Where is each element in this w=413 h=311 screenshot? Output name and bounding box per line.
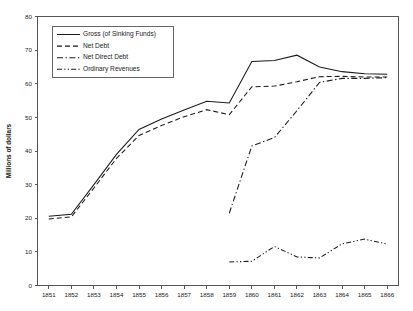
x-tick-label: 1866 xyxy=(380,291,394,298)
y-tick-label: 20 xyxy=(25,214,32,221)
y-tick-label: 80 xyxy=(25,13,32,20)
x-tick-label: 1858 xyxy=(200,291,214,298)
x-tick-label: 1862 xyxy=(290,291,304,298)
series-line-3 xyxy=(229,239,387,262)
x-tick-label: 1861 xyxy=(268,291,282,298)
line-chart: 01020304050607080 1851185218531854185518… xyxy=(0,0,413,311)
x-tick-label: 1860 xyxy=(245,291,259,298)
chart-legend: Gross (of Sinking Funds)Net DebtNet Dire… xyxy=(52,26,173,77)
x-tick-label: 1856 xyxy=(155,291,169,298)
chart-container: 01020304050607080 1851185218531854185518… xyxy=(0,0,413,311)
x-tick-label: 1865 xyxy=(358,291,372,298)
series-line-2 xyxy=(229,78,387,214)
y-tick-label: 10 xyxy=(25,248,32,255)
x-tick-label: 1854 xyxy=(110,291,124,298)
x-tick-label: 1855 xyxy=(132,291,146,298)
y-tick-label: 50 xyxy=(25,114,32,121)
x-tick-label: 1863 xyxy=(313,291,327,298)
x-tick-label: 1857 xyxy=(177,291,191,298)
y-axis-title: Millions of dollars xyxy=(5,123,12,178)
legend-label-3: Ordinary Revenues xyxy=(83,65,141,73)
legend-label-1: Net Debt xyxy=(83,42,109,49)
y-tick-label: 0 xyxy=(29,282,33,289)
x-tick-label: 1859 xyxy=(222,291,236,298)
y-tick-label: 40 xyxy=(25,147,32,154)
y-tick-label: 70 xyxy=(25,46,32,53)
series-lines xyxy=(49,55,387,262)
y-tick-label: 30 xyxy=(25,181,32,188)
y-axis-ticks: 01020304050607080 xyxy=(25,13,37,289)
x-tick-label: 1851 xyxy=(42,291,56,298)
x-tick-label: 1864 xyxy=(335,291,349,298)
y-tick-label: 60 xyxy=(25,80,32,87)
x-tick-label: 1852 xyxy=(64,291,78,298)
series-line-1 xyxy=(49,76,387,219)
legend-label-2: Net Direct Debt xyxy=(83,53,128,60)
legend-label-0: Gross (of Sinking Funds) xyxy=(83,30,156,38)
x-tick-label: 1853 xyxy=(87,291,101,298)
x-axis-ticks: 1851185218531854185518561857185818591860… xyxy=(42,286,395,298)
